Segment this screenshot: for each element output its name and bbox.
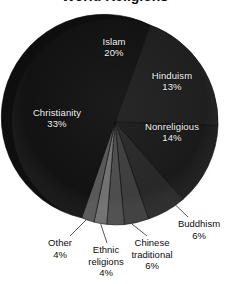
slice-label-ethnic-religions-name-line1: Ethnic <box>93 244 119 255</box>
slice-label-hinduism-percent: 13% <box>132 81 212 92</box>
slice-label-chinese-traditional: Chinese traditional 6% <box>123 237 181 272</box>
slice-label-chinese-traditional-name-line2: traditional <box>123 249 181 261</box>
slice-label-islam-percent: 20% <box>74 47 154 58</box>
slice-label-buddhism: Buddhism 6% <box>170 218 228 241</box>
slice-label-hinduism-name: Hinduism <box>152 70 192 81</box>
slice-label-islam: Islam 20% <box>74 36 154 58</box>
slice-label-buddhism-percent: 6% <box>170 230 228 242</box>
slice-label-hinduism: Hinduism 13% <box>132 70 212 92</box>
slice-label-buddhism-name: Buddhism <box>178 218 220 229</box>
slice-label-nonreligious: Nonreligious 14% <box>128 121 216 143</box>
slice-label-other-name: Other <box>48 237 72 248</box>
slice-label-nonreligious-name: Nonreligious <box>145 121 199 132</box>
slice-label-islam-name: Islam <box>102 36 125 47</box>
pie-chart: World Religions <box>0 0 230 284</box>
slice-label-nonreligious-percent: 14% <box>128 132 216 143</box>
slice-label-christianity-percent: 33% <box>15 118 99 129</box>
slice-label-other-percent: 4% <box>36 249 84 261</box>
slice-label-christianity-name: Christianity <box>33 107 81 118</box>
slice-label-chinese-traditional-name-line1: Chinese <box>135 237 170 248</box>
slice-label-chinese-traditional-percent: 6% <box>123 260 181 272</box>
slice-label-christianity: Christianity 33% <box>15 107 99 129</box>
slice-label-other: Other 4% <box>36 237 84 260</box>
